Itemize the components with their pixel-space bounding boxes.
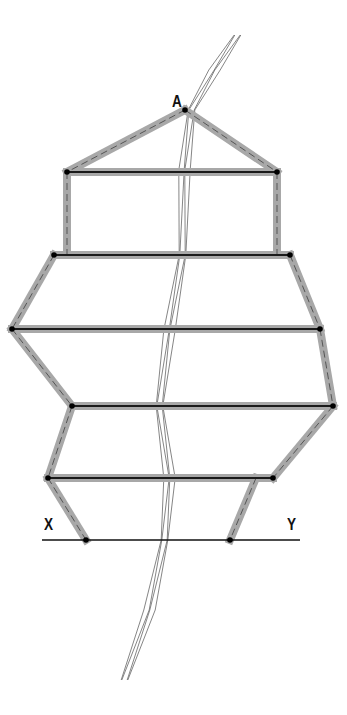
vertex-dot xyxy=(287,252,293,258)
vertex-dot xyxy=(69,403,75,409)
vertex-dot xyxy=(270,475,276,481)
label-a: A xyxy=(172,92,182,112)
hidden-edge xyxy=(290,255,320,329)
hidden-edge xyxy=(273,406,333,478)
vertex-dot xyxy=(45,475,51,481)
vertex-dot xyxy=(182,107,188,113)
vertex-dot xyxy=(51,252,57,258)
label-y: Y xyxy=(287,515,296,535)
vertex-dot xyxy=(227,537,233,543)
vertex-dot xyxy=(330,403,336,409)
vertex-dot xyxy=(83,537,89,543)
edge-bands xyxy=(12,110,333,540)
hidden-edge xyxy=(320,329,333,406)
vertex-dot xyxy=(274,169,280,175)
vertex-dot xyxy=(64,169,70,175)
vertex-dot xyxy=(317,326,323,332)
label-x: X xyxy=(44,515,53,535)
hidden-edge xyxy=(12,329,72,406)
hidden-edge xyxy=(185,110,277,172)
vertex-dot xyxy=(9,326,15,332)
